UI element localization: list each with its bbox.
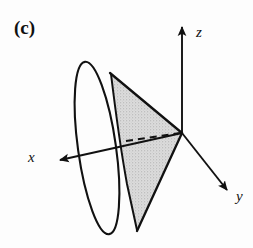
cone-diagram-svg <box>0 0 253 248</box>
axis-y <box>182 133 227 190</box>
axis-label-z: z <box>196 25 202 40</box>
axis-label-y: y <box>236 189 243 204</box>
axis-label-x: x <box>28 150 35 165</box>
figure-container: (c) z y x <box>0 0 253 248</box>
panel-label: (c) <box>14 18 35 37</box>
